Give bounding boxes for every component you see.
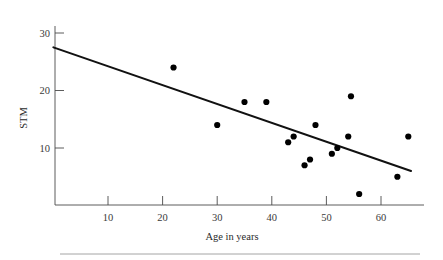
data-point (356, 191, 362, 197)
data-point (334, 145, 340, 151)
data-point (170, 64, 176, 70)
data-point (285, 139, 291, 145)
data-point (345, 133, 351, 139)
scatter-plot: 102030 102030405060 STM Age in years (0, 0, 443, 260)
x-tick-label: 20 (157, 212, 168, 223)
data-point (301, 162, 307, 168)
y-axis-ticks: 102030 (40, 28, 65, 154)
x-axis-title: Age in years (205, 231, 258, 242)
data-point (214, 122, 220, 128)
y-tick-label: 10 (40, 143, 51, 154)
x-axis-ticks: 102030405060 (103, 196, 387, 223)
x-tick-label: 30 (212, 212, 223, 223)
data-point (394, 174, 400, 180)
data-point (291, 133, 297, 139)
data-point (405, 133, 411, 139)
figure-container: 102030 102030405060 STM Age in years (0, 0, 443, 260)
y-tick-label: 30 (40, 28, 51, 39)
data-point (241, 99, 247, 105)
x-tick-label: 50 (321, 212, 332, 223)
x-tick-label: 60 (376, 212, 387, 223)
data-point (329, 151, 335, 157)
y-axis-title: STM (18, 107, 29, 129)
y-tick-label: 20 (40, 85, 51, 96)
data-point (263, 99, 269, 105)
regression-line (53, 47, 411, 171)
x-tick-label: 10 (103, 212, 114, 223)
data-point (348, 93, 354, 99)
data-point (312, 122, 318, 128)
data-points-group (170, 64, 411, 197)
data-point (307, 156, 313, 162)
x-tick-label: 40 (267, 212, 278, 223)
